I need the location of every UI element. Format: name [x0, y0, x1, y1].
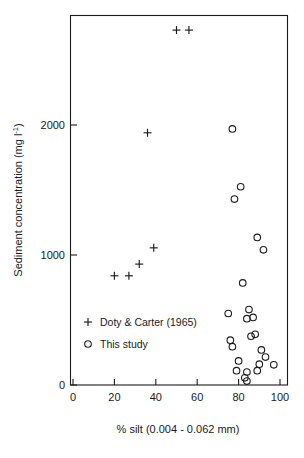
y-axis-title-main: Sediment concentration (mg l — [12, 134, 24, 277]
circle-marker — [254, 367, 261, 374]
circle-marker — [231, 196, 238, 203]
series-doty-carter — [110, 26, 193, 280]
plot-frame — [71, 16, 288, 386]
circle-marker — [248, 333, 255, 340]
x-tick-label-40: 40 — [150, 391, 162, 403]
circle-marker — [270, 362, 277, 369]
circle-marker — [237, 183, 244, 190]
legend: Doty & Carter (1965) This study — [84, 316, 197, 350]
circle-marker — [250, 314, 257, 321]
legend-entry-this-study: This study — [85, 338, 149, 350]
y-tick-label-2000: 2000 — [41, 119, 65, 131]
circle-marker — [239, 280, 246, 287]
y-axis-ticks — [71, 125, 78, 385]
circle-marker — [252, 331, 259, 338]
circle-marker — [227, 337, 234, 344]
y-axis-title: Sediment concentration (mg l-1) — [11, 123, 24, 276]
circle-marker — [254, 234, 261, 241]
x-tick-label-20: 20 — [108, 391, 120, 403]
circle-marker — [244, 315, 251, 322]
circle-marker — [235, 358, 242, 365]
circle-marker — [246, 306, 253, 313]
circle-marker — [258, 347, 265, 354]
plus-marker-icon — [84, 318, 92, 326]
legend-label-this-study: This study — [100, 338, 149, 350]
circle-marker — [260, 247, 267, 254]
svg-text:Sediment concentration (mg l-1: Sediment concentration (mg l-1) — [11, 123, 24, 276]
circle-marker — [229, 343, 236, 350]
x-tick-label-60: 60 — [191, 391, 203, 403]
y-tick-label-1000: 1000 — [41, 249, 65, 261]
x-axis-title: % silt (0.004 - 0.062 mm) — [117, 423, 240, 435]
circle-marker — [262, 354, 269, 361]
legend-entry-doty-carter: Doty & Carter (1965) — [84, 316, 197, 328]
x-tick-label-80: 80 — [232, 391, 244, 403]
x-tick-label-0: 0 — [70, 391, 76, 403]
circle-marker — [229, 126, 236, 133]
circle-marker-icon — [85, 341, 92, 348]
circle-marker — [225, 310, 232, 317]
scatter-plot-figure: 0 20 40 60 80 100 0 1000 2000 Sediment c… — [0, 0, 304, 458]
y-tick-label-0: 0 — [59, 379, 65, 391]
circle-marker — [256, 361, 263, 368]
legend-label-doty-carter: Doty & Carter (1965) — [100, 316, 197, 328]
circle-marker — [233, 367, 240, 374]
x-tick-label-100: 100 — [271, 391, 289, 403]
data-marker-layer — [110, 26, 277, 384]
y-axis-title-tail: ) — [12, 123, 24, 127]
y-axis-title-superscript: -1 — [11, 127, 20, 134]
series-this-study — [225, 126, 277, 385]
chart-svg: 0 20 40 60 80 100 0 1000 2000 Sediment c… — [0, 0, 304, 458]
